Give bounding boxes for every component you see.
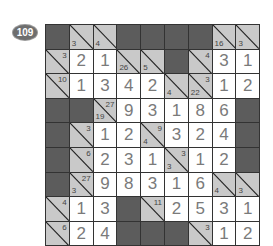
blocked-cell — [117, 25, 141, 50]
entry-digit: 3 — [165, 123, 188, 147]
clue-cell: 16 — [213, 25, 237, 50]
entry-cell[interactable]: 3 — [117, 148, 141, 173]
entry-digit: 3 — [141, 99, 164, 123]
entry-cell[interactable]: 2 — [70, 50, 94, 75]
entry-cell[interactable]: 5 — [189, 197, 213, 222]
entry-cell[interactable]: 6 — [189, 173, 213, 198]
entry-cell[interactable]: 3 — [141, 173, 165, 198]
entry-cell[interactable]: 8 — [117, 173, 141, 198]
entry-digit: 1 — [189, 148, 212, 172]
entry-digit: 3 — [94, 197, 117, 221]
entry-cell[interactable]: 1 — [94, 50, 118, 75]
entry-cell[interactable]: 1 — [141, 148, 165, 173]
down-clue: 3 — [72, 39, 76, 48]
blocked-cell — [141, 25, 165, 50]
entry-cell[interactable]: 1 — [236, 197, 260, 222]
entry-cell[interactable]: 2 — [165, 197, 189, 222]
entry-digit: 4 — [117, 74, 140, 98]
entry-cell[interactable]: 3 — [213, 50, 237, 75]
entry-cell[interactable]: 4 — [117, 74, 141, 99]
entry-cell[interactable]: 2 — [94, 148, 118, 173]
entry-cell[interactable]: 2 — [189, 123, 213, 148]
entry-cell[interactable]: 1 — [165, 173, 189, 198]
puzzle-number-badge: 109 — [13, 25, 37, 40]
entry-cell[interactable]: 2 — [213, 148, 237, 173]
entry-digit: 6 — [213, 99, 236, 123]
down-clue: 26 — [119, 63, 128, 72]
entry-digit: 2 — [94, 148, 117, 172]
entry-digit: 3 — [117, 148, 140, 172]
blocked-cell — [70, 99, 94, 124]
down-clue: 4 — [215, 186, 219, 195]
clue-cell: 33 — [165, 148, 189, 173]
clue-cell: 26 — [117, 50, 141, 75]
entry-cell[interactable]: 9 — [117, 99, 141, 124]
entry-cell[interactable]: 1 — [70, 74, 94, 99]
blocked-cell — [141, 222, 165, 246]
blocked-cell — [236, 99, 260, 124]
clue-cell: 11 — [141, 197, 165, 222]
entry-digit: 3 — [213, 50, 236, 74]
entry-digit: 2 — [70, 222, 93, 246]
blocked-cell — [165, 25, 189, 50]
entry-cell[interactable]: 3 — [94, 197, 118, 222]
entry-cell[interactable]: 1 — [213, 74, 237, 99]
entry-cell[interactable]: 2 — [117, 123, 141, 148]
across-clue: 3 — [181, 149, 185, 158]
entry-cell[interactable]: 1 — [213, 222, 237, 246]
entry-cell[interactable]: 3 — [213, 197, 237, 222]
entry-cell[interactable]: 3 — [94, 74, 118, 99]
clue-cell: 4 — [189, 50, 213, 75]
blocked-cell — [46, 99, 70, 124]
across-clue: 27 — [105, 100, 114, 109]
entry-digit: 4 — [213, 123, 236, 147]
blocked-cell — [165, 50, 189, 75]
entry-digit: 1 — [141, 148, 164, 172]
entry-cell[interactable]: 2 — [141, 74, 165, 99]
across-clue: 3 — [62, 51, 66, 60]
entry-cell[interactable]: 2 — [236, 222, 260, 246]
blocked-cell — [165, 222, 189, 246]
entry-digit: 2 — [117, 123, 140, 147]
entry-digit: 1 — [213, 74, 236, 98]
entry-digit: 1 — [236, 50, 259, 74]
entry-cell[interactable]: 1 — [165, 99, 189, 124]
entry-digit: 1 — [213, 222, 236, 246]
entry-cell[interactable]: 3 — [165, 123, 189, 148]
entry-cell[interactable]: 2 — [70, 222, 94, 246]
entry-digit: 1 — [165, 99, 188, 123]
entry-cell[interactable]: 1 — [70, 197, 94, 222]
entry-digit: 2 — [70, 50, 93, 74]
entry-cell[interactable]: 9 — [94, 173, 118, 198]
entry-cell[interactable]: 6 — [213, 99, 237, 124]
down-clue: 4 — [167, 88, 171, 97]
blocked-cell — [46, 173, 70, 198]
entry-cell[interactable]: 4 — [94, 222, 118, 246]
entry-cell[interactable]: 1 — [236, 50, 260, 75]
entry-digit: 9 — [117, 99, 140, 123]
clue-cell: 3 — [70, 123, 94, 148]
entry-cell[interactable]: 1 — [189, 148, 213, 173]
clue-cell: 4 — [165, 74, 189, 99]
clue-cell: 3 — [189, 222, 213, 246]
down-clue: 3 — [238, 186, 242, 195]
entry-digit: 9 — [94, 173, 117, 197]
entry-cell[interactable]: 2 — [236, 74, 260, 99]
down-clue: 22 — [191, 88, 200, 97]
down-clue: 19 — [96, 112, 105, 121]
blocked-cell — [46, 123, 70, 148]
entry-cell[interactable]: 1 — [94, 123, 118, 148]
entry-digit: 1 — [94, 50, 117, 74]
down-clue: 4 — [96, 39, 100, 48]
clue-cell: 3 — [70, 25, 94, 50]
across-clue: 10 — [58, 75, 67, 84]
across-clue: 3 — [86, 124, 90, 133]
entry-cell[interactable]: 8 — [189, 99, 213, 124]
entry-digit: 3 — [141, 173, 164, 197]
entry-digit: 1 — [70, 197, 93, 221]
entry-digit: 2 — [141, 74, 164, 98]
entry-cell[interactable]: 4 — [213, 123, 237, 148]
entry-digit: 1 — [165, 173, 188, 197]
entry-cell[interactable]: 3 — [141, 99, 165, 124]
clue-cell: 4 — [46, 197, 70, 222]
